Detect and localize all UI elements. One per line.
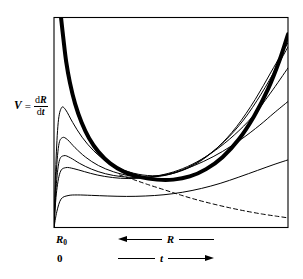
arrow-line-segment xyxy=(118,258,155,259)
arrow-line-segment xyxy=(179,239,214,240)
arrow-line-segment xyxy=(168,258,205,259)
fraction-numerator: dR xyxy=(34,95,48,106)
series-trajectory-3 xyxy=(54,68,288,228)
radius-direction-arrow-row: R xyxy=(118,233,214,245)
numerator-variable: R xyxy=(40,94,47,105)
series-bold-envelope xyxy=(61,18,288,180)
time-axis-label: t xyxy=(155,253,168,264)
plot-frame xyxy=(54,18,288,228)
arrow-right-icon xyxy=(205,255,214,261)
origin-label-zero: 0 xyxy=(57,253,63,264)
y-axis-equals: = xyxy=(25,101,31,112)
axes-frame xyxy=(54,18,288,228)
arrow-left-icon xyxy=(118,236,127,242)
y-axis-variable: V xyxy=(14,100,22,112)
y-axis-label: V = dR dt xyxy=(14,95,48,117)
figure-container: V = dR dt R0 0 R t xyxy=(0,0,303,279)
denominator-variable: t xyxy=(42,106,45,117)
series-trajectory-5 xyxy=(54,160,288,228)
origin-label-radius: R0 xyxy=(56,234,67,247)
data-series-group xyxy=(54,18,288,228)
origin-label-radius-subscript: 0 xyxy=(63,238,67,247)
radius-axis-label: R xyxy=(162,234,179,245)
fraction-denominator: dt xyxy=(36,107,46,118)
time-direction-arrow-row: t xyxy=(118,252,214,264)
arrow-line-segment xyxy=(127,239,162,240)
derivative-fraction: dR dt xyxy=(34,95,48,117)
